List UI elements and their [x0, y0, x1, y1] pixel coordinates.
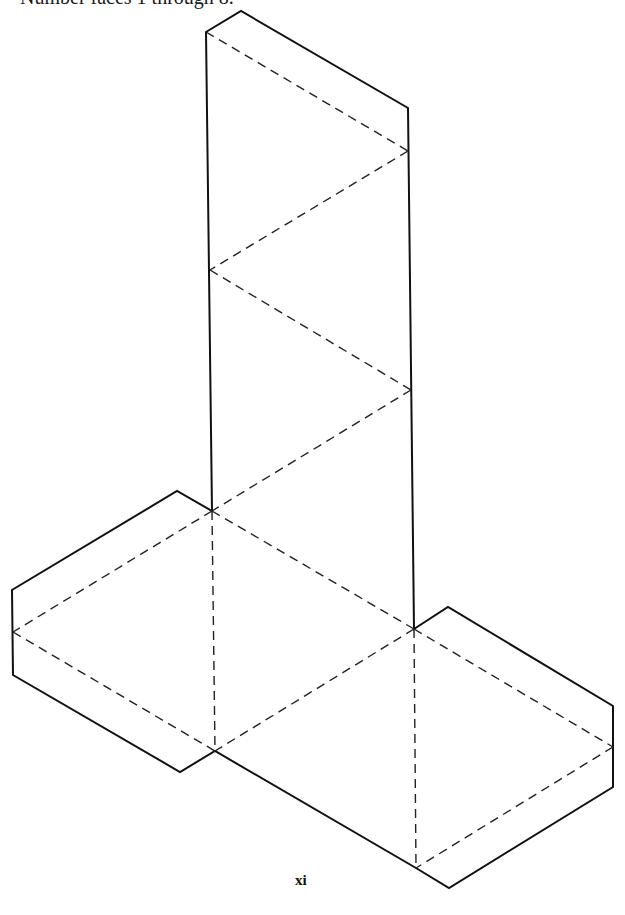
fold-line [210, 151, 408, 270]
fold-line [215, 629, 414, 751]
fold-line [212, 390, 411, 511]
page-number: xi [295, 872, 307, 889]
octahedron-net [0, 0, 625, 915]
fold-line [416, 747, 613, 868]
fold-line [212, 511, 414, 629]
fold-line [414, 629, 416, 868]
fold-line [212, 511, 215, 751]
net-outline [12, 11, 613, 888]
fold-line [210, 270, 411, 390]
